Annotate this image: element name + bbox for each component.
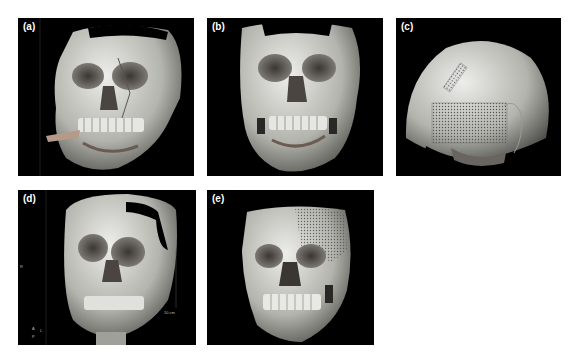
skull-frontal-scale-image	[18, 190, 196, 345]
panel-d: (d) R A L P 10 cm	[18, 190, 196, 345]
panel-label-a: (a)	[23, 21, 35, 32]
skull-oblique-image	[18, 18, 194, 176]
orientation-marker-p: P	[32, 334, 35, 339]
panel-label-b: (b)	[212, 21, 225, 32]
panel-b: (b)	[207, 18, 383, 176]
skull-frontal-image	[207, 18, 383, 176]
scale-bar-label: 10 cm	[164, 310, 175, 315]
panel-label-c: (c)	[401, 21, 413, 32]
orientation-marker-r: R	[20, 264, 23, 269]
panel-label-e: (e)	[212, 193, 224, 204]
orientation-marker-l: L	[40, 328, 42, 333]
panel-a: (a)	[18, 18, 194, 176]
skull-repaired-mesh-image	[207, 190, 374, 345]
orientation-marker-a: A	[32, 326, 35, 331]
panel-e: (e)	[207, 190, 374, 345]
panel-c: (c)	[396, 18, 561, 176]
panel-label-d: (d)	[23, 193, 36, 204]
skull-posterior-mesh-image	[396, 18, 561, 176]
